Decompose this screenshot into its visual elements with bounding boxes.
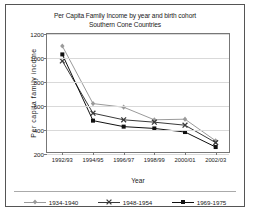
x-axis-label: Year xyxy=(46,177,230,184)
y-tick-label: 200 xyxy=(34,151,44,158)
legend-marker-icon xyxy=(24,198,46,206)
data-point xyxy=(91,119,95,123)
x-tick-mark xyxy=(154,152,155,155)
y-tick-label: 1000 xyxy=(30,55,44,62)
chart-subtitle: Southern Cone Countries xyxy=(6,21,244,28)
legend-item[interactable]: 1948-1954 xyxy=(98,198,153,206)
x-tick-label: 1992/93 xyxy=(52,157,73,163)
x-tick-label: 1994/95 xyxy=(83,157,104,163)
legend-label: 1948-1954 xyxy=(123,199,153,206)
y-tick-label: 400 xyxy=(34,127,44,134)
data-point xyxy=(60,59,65,64)
y-axis-label: Per capita family income xyxy=(30,33,37,153)
y-tick-mark xyxy=(44,106,47,107)
y-tick-label: 800 xyxy=(34,79,44,86)
y-tick-mark xyxy=(44,34,47,35)
plot-area: Per capita family income 200400600800100… xyxy=(46,33,230,153)
x-tick-label: 2002/03 xyxy=(205,157,226,163)
legend-marker-icon xyxy=(98,198,120,206)
y-tick-mark xyxy=(44,154,47,155)
legend-item[interactable]: 1969-1975 xyxy=(172,198,227,206)
gridline xyxy=(47,130,229,131)
y-tick-label: 600 xyxy=(34,103,44,110)
x-tick-mark xyxy=(62,152,63,155)
legend-label: 1969-1975 xyxy=(197,199,227,206)
gridline xyxy=(47,34,229,35)
data-point xyxy=(214,145,218,149)
y-tick-mark xyxy=(44,130,47,131)
series-lines xyxy=(47,34,231,154)
legend-marker-icon xyxy=(172,198,194,206)
legend-item[interactable]: 1934-1940 xyxy=(24,198,79,206)
x-tick-label: 1996/97 xyxy=(113,157,134,163)
chart-frame: Per Capita Family Income by year and bir… xyxy=(5,4,245,207)
legend-label: 1934-1940 xyxy=(49,199,79,206)
data-point xyxy=(60,43,64,48)
y-tick-label: 1200 xyxy=(30,31,44,38)
x-tick-mark xyxy=(124,152,125,155)
gridline xyxy=(47,154,229,155)
x-tick-mark xyxy=(93,152,94,155)
gridline xyxy=(47,82,229,83)
series-line xyxy=(62,46,215,141)
data-point xyxy=(60,52,64,56)
x-tick-mark xyxy=(185,152,186,155)
chart-legend: 1934-19401948-19541969-1975 xyxy=(14,191,236,210)
data-point xyxy=(122,125,126,129)
chart-title: Per Capita Family Income by year and bir… xyxy=(6,12,244,19)
y-tick-mark xyxy=(44,82,47,83)
x-tick-label: 2000/01 xyxy=(175,157,196,163)
x-tick-label: 1998/99 xyxy=(144,157,165,163)
gridline xyxy=(47,58,229,59)
gridline xyxy=(47,106,229,107)
y-tick-mark xyxy=(44,58,47,59)
data-point xyxy=(183,117,187,122)
x-tick-mark xyxy=(216,152,217,155)
